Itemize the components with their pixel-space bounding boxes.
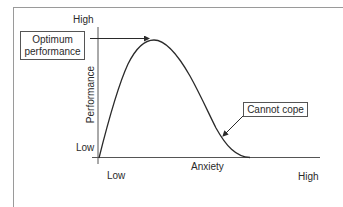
optimum-line-2: performance [21, 46, 84, 58]
x-axis-label: Anxiety [191, 161, 224, 172]
y-high-label: High [73, 14, 94, 25]
y-low-label: Low [76, 142, 94, 153]
cannot-cope-box: Cannot cope [243, 102, 308, 117]
x-high-label: High [298, 171, 319, 182]
cannot-cope-label: Cannot cope [247, 104, 304, 115]
optimum-performance-box: Optimum performance [20, 31, 85, 60]
cannot-cope-arrow [223, 116, 243, 136]
optimum-line-1: Optimum [21, 34, 84, 46]
performance-curve [99, 40, 250, 158]
x-low-label: Low [107, 170, 125, 181]
y-axis-label: Performance [85, 65, 96, 125]
